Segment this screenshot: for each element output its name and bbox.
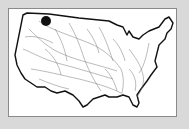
map-frame <box>8 8 177 117</box>
location-marker <box>41 16 51 26</box>
us-outline <box>15 13 173 107</box>
us-river-map <box>9 9 178 118</box>
